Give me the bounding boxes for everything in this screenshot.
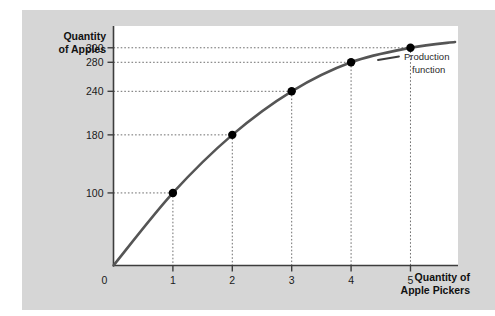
leader-lines-group — [114, 48, 411, 266]
y-axis-ticks — [108, 48, 114, 193]
data-point-marker — [228, 131, 236, 139]
y-tick-label: 100 — [86, 187, 104, 199]
annotation-pointer-line — [378, 57, 399, 61]
production-function-label-line2: function — [412, 64, 445, 75]
x-tick-label: 2 — [229, 274, 235, 286]
figure-root: 100180240280300 012345 Quantity of Apple… — [0, 0, 495, 316]
production-function-chart: 100180240280300 012345 Quantity of Apple… — [0, 0, 495, 316]
x-axis-ticks — [173, 266, 411, 272]
x-axis-tick-labels: 012345 — [102, 274, 414, 286]
x-tick-label: 4 — [348, 274, 354, 286]
y-tick-label: 280 — [86, 56, 104, 68]
data-point-marker — [347, 58, 355, 66]
y-axis-title-line2: of Apples — [59, 43, 107, 55]
y-axis-title-line1: Quantity — [63, 30, 106, 42]
production-function-label-line1: Production — [404, 51, 449, 62]
axes-group — [108, 26, 459, 272]
y-axis-tick-labels: 100180240280300 — [86, 42, 104, 199]
data-point-marker — [169, 189, 177, 197]
y-tick-label: 240 — [86, 85, 104, 97]
x-tick-label: 3 — [289, 274, 295, 286]
y-tick-label: 180 — [86, 129, 104, 141]
production-function-curve — [114, 42, 456, 266]
x-axis-title-line2: Apple Pickers — [401, 284, 471, 296]
x-tick-label: 0 — [102, 274, 108, 286]
x-axis-title-line1: Quantity of — [415, 271, 471, 283]
x-tick-label: 1 — [170, 274, 176, 286]
data-point-marker — [287, 87, 295, 95]
